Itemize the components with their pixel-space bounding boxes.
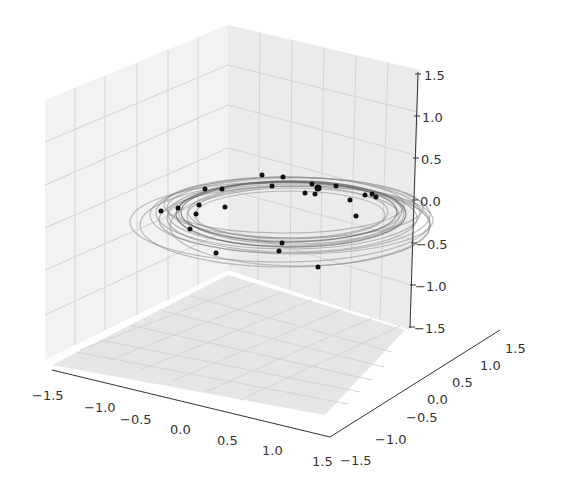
- y-tick-label: −1.0: [375, 432, 407, 447]
- z-tick-label: 0.5: [421, 152, 442, 167]
- z-tick-label: −1.0: [415, 279, 447, 294]
- x-tick-label: 1.0: [262, 443, 283, 458]
- z-tick-label: 0.0: [420, 194, 441, 209]
- x-tick-label: 0.5: [217, 433, 238, 448]
- y-tick-label: 0.5: [452, 375, 473, 390]
- x-tick-label: −0.5: [120, 412, 152, 427]
- y-tick-label: 1.5: [505, 341, 526, 356]
- x-tick-label: 0.0: [170, 422, 191, 437]
- figure: 1.5 1.0 0.5 0.0 −0.5 −1.0 −1.5 −1.5 −1.0…: [0, 0, 572, 496]
- x-tick-label: −1.0: [84, 400, 116, 415]
- z-tick-label: 1.0: [422, 110, 443, 125]
- 3d-axes: 1.5 1.0 0.5 0.0 −0.5 −1.0 −1.5 −1.5 −1.0…: [0, 0, 572, 496]
- y-tick-label: 0.0: [427, 392, 448, 407]
- z-tick-label: −0.5: [416, 237, 448, 252]
- z-tick-labels: 1.5 1.0 0.5 0.0 −0.5 −1.0 −1.5: [414, 68, 448, 336]
- x-tick-label: −1.5: [32, 388, 64, 403]
- y-tick-label: −1.5: [340, 453, 372, 468]
- y-tick-label: −0.5: [406, 410, 438, 425]
- y-tick-label: 1.0: [480, 358, 501, 373]
- x-tick-label: 1.5: [312, 454, 333, 469]
- z-tick-label: 1.5: [424, 68, 445, 83]
- z-tick-label: −1.5: [414, 321, 446, 336]
